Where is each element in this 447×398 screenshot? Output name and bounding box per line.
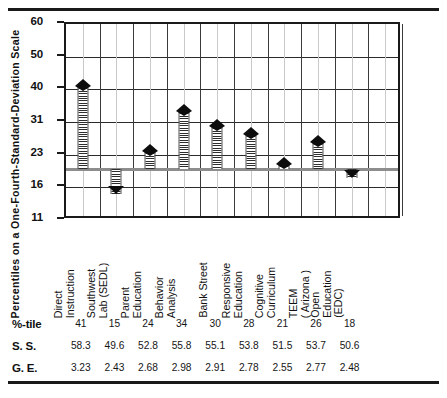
y-tick-label-60: 60 — [3, 15, 43, 27]
marker-cap — [276, 164, 292, 169]
bar-column — [245, 134, 256, 168]
category-label-text: BehaviorAnalysis — [153, 276, 176, 318]
table-cell: 49.6 — [98, 340, 132, 351]
category-label-text: OpenEducation(EDC) — [310, 271, 345, 318]
value-marker — [176, 104, 192, 111]
bar-direct-instruction — [66, 24, 100, 216]
y-tick-mark-16 — [57, 184, 64, 186]
bar-column — [77, 86, 88, 169]
y-tick-label-16: 16 — [3, 178, 43, 190]
chart-figure: Percentiles on a One-Fourth-Standard-Dev… — [0, 0, 447, 398]
table-cell: 2.98 — [165, 362, 199, 373]
y-tick-mark-50 — [57, 54, 64, 56]
table-cell: 2.55 — [266, 362, 300, 373]
marker-cap — [310, 142, 326, 147]
y-tick-mark-40 — [57, 86, 64, 88]
bottom-rule — [8, 381, 439, 384]
marker-cap — [75, 86, 91, 91]
category-label-text: TEEM( Arizona ) — [288, 270, 311, 318]
bar-bank-street — [200, 24, 234, 216]
table-cell: 58.3 — [64, 340, 98, 351]
y-tick-label-23: 23 — [3, 146, 43, 158]
bar-cognitive-curriculum — [268, 24, 302, 216]
bar-responsive-education — [234, 24, 268, 216]
category-label-9: OpenEducation(EDC) — [333, 222, 367, 318]
value-marker — [310, 135, 326, 142]
y-tick-label-31: 31 — [3, 113, 43, 125]
table-row-label-1: S. S. — [12, 340, 72, 352]
category-label-text: CognitiveCurriculum — [254, 267, 277, 318]
table-cell: 30 — [198, 318, 232, 329]
value-marker — [142, 144, 158, 151]
gridline-v-minor-9 — [385, 24, 386, 216]
value-marker — [75, 79, 91, 86]
bar-column — [178, 111, 189, 169]
table-row-label-0: %-tile — [12, 318, 72, 330]
table-cell: 2.48 — [333, 362, 367, 373]
table-cell: 2.91 — [198, 362, 232, 373]
table-cell: 2.78 — [232, 362, 266, 373]
y-tick-mark-11 — [57, 217, 64, 219]
bar-parent-education — [133, 24, 167, 216]
table-cell: 52.8 — [131, 340, 165, 351]
table-cell: 34 — [165, 318, 199, 329]
table-cell: 24 — [131, 318, 165, 329]
value-marker — [344, 170, 360, 178]
marker-cap — [142, 151, 158, 156]
category-label-text: SouthwestLab (SEDL) — [86, 263, 109, 318]
bar-open-education-edc — [335, 24, 369, 216]
y-tick-label-40: 40 — [3, 80, 43, 92]
marker-cap — [243, 134, 259, 139]
table-cell: 26 — [299, 318, 333, 329]
bar-southwest-lab-sedl — [100, 24, 134, 216]
table-cell: 2.77 — [299, 362, 333, 373]
value-marker — [276, 157, 292, 164]
y-tick-label-11: 11 — [3, 211, 43, 223]
category-label-text: Bank Street — [199, 263, 211, 318]
value-marker — [243, 127, 259, 134]
table-cell: 55.1 — [198, 340, 232, 351]
marker-cap — [209, 126, 225, 131]
category-label-text: ParentEducation — [120, 271, 143, 318]
category-label-text: DirectInstruction — [53, 269, 76, 318]
table-cell: 28 — [232, 318, 266, 329]
value-marker — [108, 186, 124, 194]
category-label-4: BehaviorAnalysis — [165, 222, 199, 318]
table-cell: 2.43 — [98, 362, 132, 373]
table-cell: 15 — [98, 318, 132, 329]
table-cell: 2.68 — [131, 362, 165, 373]
bar-teem-arizona — [301, 24, 335, 216]
table-cell: 53.8 — [232, 340, 266, 351]
table-cell: 50.6 — [333, 340, 367, 351]
table-cell: 3.23 — [64, 362, 98, 373]
marker-cap — [176, 111, 192, 116]
top-rule — [8, 8, 439, 11]
x-axis-category-labels: DirectInstructionSouthwestLab (SEDL)Pare… — [64, 222, 400, 318]
table-row-label-2: G. E. — [12, 362, 72, 374]
category-label-text: ResponsiveEducation — [221, 263, 244, 318]
bar-column — [212, 126, 223, 169]
y-tick-mark-23 — [57, 152, 64, 154]
table-cell: 53.7 — [299, 340, 333, 351]
gridline-v-9 — [368, 24, 369, 216]
table-cell: 55.8 — [165, 340, 199, 351]
y-tick-label-50: 50 — [3, 48, 43, 60]
plot-area — [64, 22, 400, 218]
table-cell: 41 — [64, 318, 98, 329]
data-table: %-tile411524343028212618S. S.58.349.652.… — [0, 318, 447, 380]
y-tick-mark-60 — [57, 21, 64, 23]
table-cell: 51.5 — [266, 340, 300, 351]
y-tick-mark-31 — [57, 119, 64, 121]
value-marker — [209, 119, 225, 126]
table-cell: 18 — [333, 318, 367, 329]
gridline-v-10 — [402, 24, 403, 216]
bar-behavior-analysis — [167, 24, 201, 216]
table-cell: 21 — [266, 318, 300, 329]
